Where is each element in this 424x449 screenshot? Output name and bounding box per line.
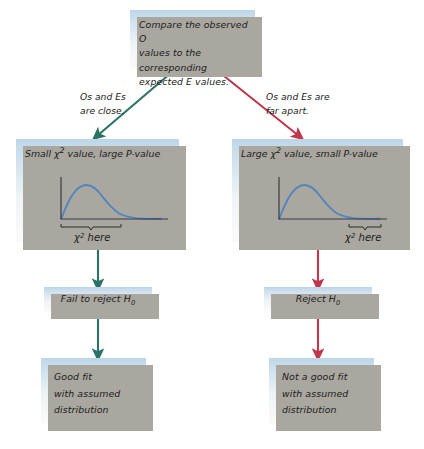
brace-label-post: here <box>355 232 381 243</box>
node-good-fit[interactable]: Good fit with assumed distribution <box>41 358 146 424</box>
chisq-density-curve <box>279 185 380 219</box>
node-large-chisq-small-pvalue[interactable]: Large χ2 value, small P-value χ2 here <box>232 139 403 243</box>
right-chisq-plot: χ2 here <box>232 157 403 243</box>
node-fail-to-reject-text: Fail to reject H0 <box>44 287 152 307</box>
branch-label-close: Os and Es are close. <box>80 90 126 118</box>
node-fail-to-reject-h0[interactable]: Fail to reject H0 <box>44 287 152 312</box>
node-good-fit-text: Good fit with assumed distribution <box>41 358 146 419</box>
flowchart-canvas: Compare the observed O values to the cor… <box>0 0 424 449</box>
reject-label: Reject H <box>296 293 336 304</box>
node-not-good-fit-text: Not a good fit with assumed distribution <box>269 358 374 419</box>
h-null-subscript: 0 <box>336 299 340 307</box>
h-null-subscript: 0 <box>131 299 135 307</box>
brace-label-post: here <box>84 232 110 243</box>
node-compare-text: Compare the observed O values to the cor… <box>130 10 255 89</box>
node-compare-observed-expected[interactable]: Compare the observed O values to the cor… <box>130 10 255 70</box>
branch-label-far-apart: Os and Es are far apart. <box>266 90 330 118</box>
left-chisq-plot: χ2 here <box>16 157 179 243</box>
chisq-range-brace <box>349 224 381 230</box>
chisq-range-brace <box>61 224 121 230</box>
node-reject-text: Reject H0 <box>264 287 372 307</box>
right-brace-label: χ2 here <box>344 232 381 244</box>
fail-reject-label: Fail to reject H <box>61 293 131 304</box>
chisq-density-curve <box>61 185 161 219</box>
node-not-good-fit[interactable]: Not a good fit with assumed distribution <box>269 358 374 424</box>
node-reject-h0[interactable]: Reject H0 <box>264 287 372 312</box>
node-small-chisq-large-pvalue[interactable]: Small χ2 value, large P-value χ2 here <box>16 139 179 243</box>
left-brace-label: χ2 here <box>73 232 110 244</box>
